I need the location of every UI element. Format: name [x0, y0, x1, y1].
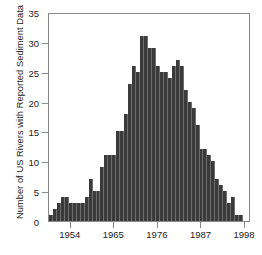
- x-tick-mark: [200, 222, 201, 228]
- x-tick-mark: [244, 222, 245, 228]
- x-tick-label-1965: 1965: [93, 230, 133, 240]
- x-tick-label-1998: 1998: [224, 230, 262, 240]
- x-tick-label-1987: 1987: [180, 230, 220, 240]
- bar-series: [49, 14, 249, 221]
- x-tick-mark: [113, 222, 114, 228]
- x-tick-mark: [157, 222, 158, 228]
- bar: [239, 215, 243, 221]
- x-tick-mark: [70, 222, 71, 228]
- x-tick-label-1954: 1954: [50, 230, 90, 240]
- y-axis-title: Number of US Rivers with Reported Sedime…: [15, 2, 25, 222]
- plot-area: [48, 13, 250, 222]
- x-tick-label-1976: 1976: [137, 230, 177, 240]
- histogram-figure: 35 30 25 20 15 10 5 0 Number of US River…: [0, 0, 262, 255]
